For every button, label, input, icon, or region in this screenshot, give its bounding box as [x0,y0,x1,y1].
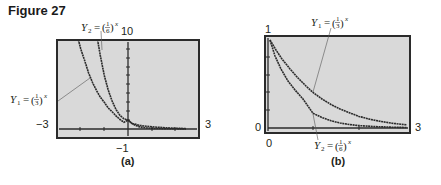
svg-text:1: 1 [318,22,322,30]
y-min-label-a: −1 [116,142,129,154]
annotation-y1-a: Y 1 = ( 1 3 ) x [10,92,48,107]
svg-text:x: x [344,15,349,23]
svg-text:): ) [110,21,114,34]
figure-canvas: −3 3 10 −1 (a) Y 2 = ( 1 6 ) x Y 1 = ( 1… [0,0,441,185]
y-min-label-b: 0 [255,121,261,133]
y-max-label-a: 10 [121,25,133,37]
x-min-label-b: 0 [266,137,272,149]
x-min-label-a: −3 [36,118,49,130]
svg-text:=: = [94,21,100,33]
annotation-y2-b: Y 2 = ( 1 6 ) x [314,138,352,153]
annotation-y1-b: Y 1 = ( 1 3 ) x [311,15,349,30]
svg-text:2: 2 [321,145,325,153]
x-max-label-a: 3 [205,118,211,130]
svg-text:=: = [327,139,333,151]
panel-a: −3 3 10 −1 (a) Y 2 = ( 1 6 ) x Y 1 = ( 1… [10,20,211,167]
svg-text:=: = [324,16,330,28]
svg-text:x: x [114,20,119,28]
panel-b: 1 0 3 0 (b) Y 1 = ( 1 3 ) x Y 2 = ( 1 6 … [255,15,421,167]
annotation-y2-a: Y 2 = ( 1 6 ) x [81,20,119,35]
svg-text:=: = [23,93,29,105]
svg-text:1: 1 [17,99,21,107]
svg-text:): ) [343,140,347,153]
svg-text:x: x [43,92,48,100]
caption-a: (a) [121,155,135,167]
x-max-label-b: 3 [415,121,421,133]
svg-text:): ) [39,94,43,107]
svg-text:x: x [347,138,352,146]
y-max-label-b: 1 [265,23,271,35]
svg-text:2: 2 [88,27,92,35]
plot-area-b [265,36,410,133]
caption-b: (b) [331,155,345,167]
svg-text:): ) [340,17,344,30]
